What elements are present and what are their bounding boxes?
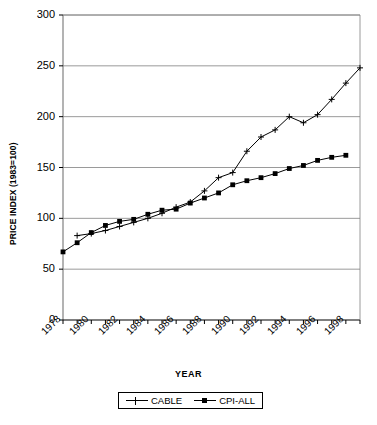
square-marker-icon — [194, 396, 216, 406]
y-tick-label: 100 — [15, 211, 55, 223]
y-tick-label: 300 — [15, 8, 55, 20]
legend-item-cpi-all: CPI-ALL — [194, 395, 255, 406]
legend-label-cable: CABLE — [151, 395, 182, 406]
y-tick-label: 200 — [15, 110, 55, 122]
y-axis-title: PRICE INDEX (1983=100) — [8, 229, 18, 245]
y-tick-label: 50 — [15, 262, 55, 274]
legend-label-cpi-all: CPI-ALL — [219, 395, 255, 406]
legend-item-cable: CABLE — [126, 395, 182, 406]
plot-area — [0, 0, 377, 425]
plus-marker-icon — [126, 396, 148, 406]
chart-figure: PRICE INDEX (1983=100) 05010015020025030… — [0, 0, 377, 425]
y-tick-label: 150 — [15, 161, 55, 173]
chart-legend: CABLE CPI-ALL — [118, 392, 263, 409]
x-axis-title: YEAR — [0, 369, 377, 379]
y-tick-label: 250 — [15, 59, 55, 71]
